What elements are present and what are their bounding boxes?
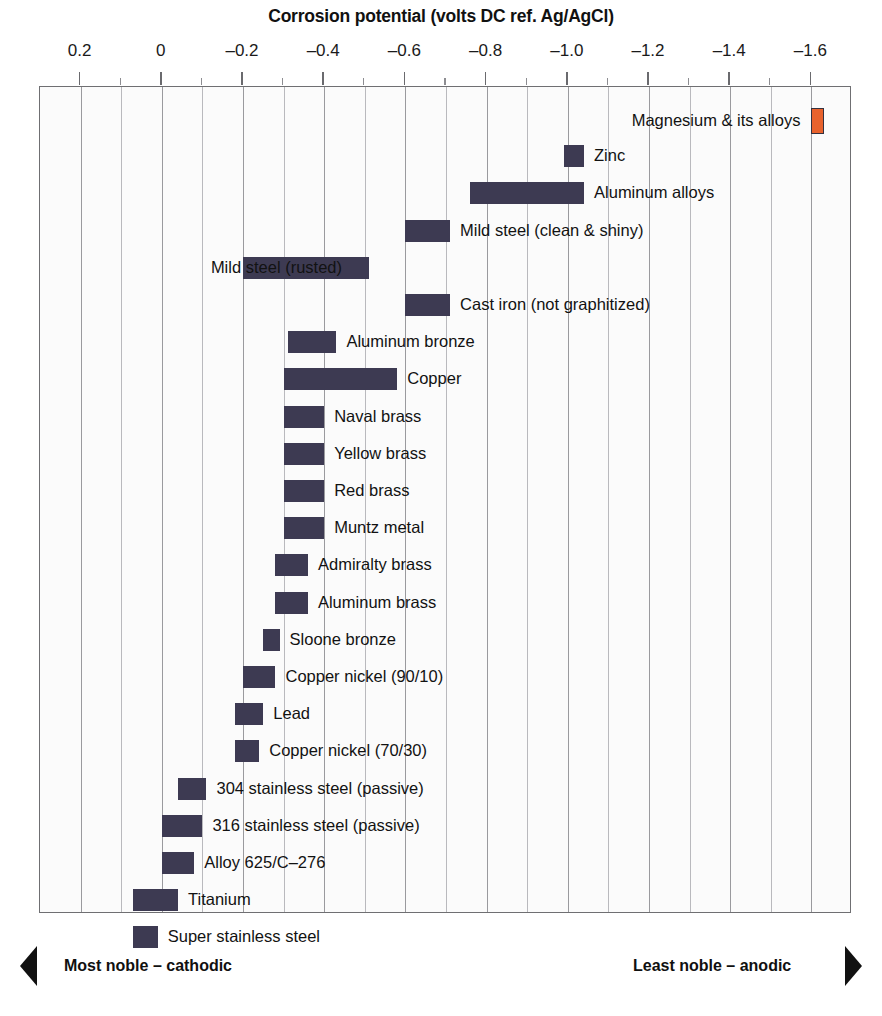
x-minor-tick-mark [688,78,689,85]
major-gridline [730,87,731,912]
bar [178,778,206,800]
x-minor-tick-mark [769,78,770,85]
minor-gridline [771,87,772,912]
bar [235,740,259,762]
bar-label: Lead [273,705,310,722]
bar [405,294,450,316]
x-tick-label: 0 [156,41,165,61]
bar [243,666,275,688]
x-tick-mark [566,72,568,85]
bar-label: Alloy 625/C–276 [204,854,325,871]
bar [275,592,307,614]
minor-gridline [608,87,609,912]
bar-series [40,87,850,912]
plot-area [39,86,851,913]
bar-label: Aluminum brass [318,594,436,611]
x-minor-tick-mark [526,78,527,85]
x-tick-label: –0.8 [469,41,502,61]
x-tick-mark [485,72,487,85]
x-tick-mark [322,72,324,85]
bar-label: Naval brass [334,408,421,425]
bar-label: Super stainless steel [168,928,320,945]
bar-label: Red brass [334,482,409,499]
x-tick-mark [404,72,406,85]
bar [284,368,398,390]
bar-label: Mild steel (clean & shiny) [460,222,643,239]
major-gridline [81,87,82,912]
bar [405,220,450,242]
bar [284,480,325,502]
major-gridline [649,87,650,912]
bar-label: Mild steel (rusted) [0,259,342,276]
bar-label: Copper [407,370,461,387]
x-minor-tick-mark [607,78,608,85]
x-minor-tick-mark [444,78,445,85]
x-tick-mark [160,72,162,85]
bar [284,443,325,465]
bar-label: Zinc [594,147,625,164]
bar [235,703,263,725]
bar [564,145,584,167]
major-gridline [811,87,812,912]
left-arrow-icon [20,946,37,986]
most-noble-label: Most noble – cathodic [64,957,232,975]
x-tick-label: –0.6 [388,41,421,61]
least-noble-label: Least noble – anodic [633,957,791,975]
bar-label: Yellow brass [334,445,426,462]
bar-label: Titanium [188,891,251,908]
x-tick-label: –1.2 [631,41,664,61]
bar-label: 316 stainless steel (passive) [212,817,419,834]
x-tick-label: –1.0 [550,41,583,61]
minor-gridline [446,87,447,912]
bar [284,406,325,428]
bar [162,852,194,874]
x-tick-label: –0.4 [307,41,340,61]
bar-label: Copper nickel (70/30) [269,742,427,759]
bar [133,926,157,948]
bar [284,517,325,539]
x-tick-label: 0.2 [68,41,92,61]
x-tick-mark [728,72,730,85]
bar-label: Admiralty brass [318,556,432,573]
bar-label: 304 stainless steel (passive) [216,780,423,797]
bar-label: Magnesium & its alloys [0,112,800,129]
major-gridline [162,87,163,912]
bar [275,554,307,576]
chart-title: Corrosion potential (volts DC ref. Ag/Ag… [0,6,882,27]
minor-gridline [690,87,691,912]
minor-gridline [527,87,528,912]
bar-label: Aluminum bronze [346,333,474,350]
bar-label: Cast iron (not graphitized) [460,296,650,313]
x-tick-mark [810,72,812,85]
bar [811,108,823,134]
minor-gridline [202,87,203,912]
bar [133,889,178,911]
bar-label: Muntz metal [334,519,424,536]
x-minor-tick-mark [120,78,121,85]
corrosion-potential-chart: Corrosion potential (volts DC ref. Ag/Ag… [0,0,882,1016]
x-minor-tick-mark [363,78,364,85]
x-tick-mark [241,72,243,85]
bar [288,331,337,353]
bar [263,629,279,651]
bar-label: Sloone bronze [290,631,396,648]
major-gridline [568,87,569,912]
bar-label: Aluminum alloys [594,184,714,201]
major-gridline [487,87,488,912]
x-tick-label: –1.4 [713,41,746,61]
x-tick-label: –1.6 [794,41,827,61]
x-tick-mark [647,72,649,85]
x-minor-tick-mark [282,78,283,85]
bar [162,815,203,837]
bar-label: Copper nickel (90/10) [285,668,443,685]
bar [470,182,584,204]
right-arrow-icon [845,946,862,986]
x-minor-tick-mark [201,78,202,85]
gridlines [40,87,850,912]
x-tick-mark [79,72,81,85]
x-tick-label: –0.2 [225,41,258,61]
minor-gridline [121,87,122,912]
